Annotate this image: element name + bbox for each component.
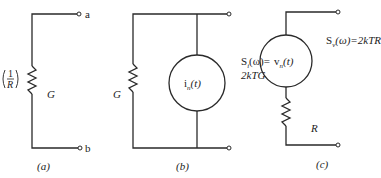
terminal-b-label: b — [85, 143, 91, 154]
resistor-c-icon — [282, 98, 290, 126]
caption-c: (c) — [316, 159, 328, 170]
conductance-label-a: G — [47, 89, 55, 100]
resistor-a-icon — [28, 66, 36, 94]
caption-a: (a) — [37, 161, 50, 172]
caption-b: (b) — [176, 161, 189, 172]
terminal-c-bottom-icon — [336, 143, 340, 147]
fraction-numerator: 1 — [8, 69, 13, 79]
current-source-label: in(t) — [184, 78, 201, 92]
voltage-source-label: vn(t) — [274, 56, 293, 70]
panel-c-circuit — [260, 10, 340, 147]
resistor-b-icon — [129, 64, 137, 92]
panel-a-circuit — [28, 12, 82, 150]
terminal-b-bottom-icon — [227, 146, 231, 150]
resistance-label-c: R — [311, 123, 318, 134]
terminal-a-icon — [77, 12, 81, 16]
fraction-denominator: R — [7, 80, 13, 90]
terminal-a-label: a — [85, 9, 90, 20]
terminal-c-top-icon — [336, 10, 340, 14]
conductance-label-b: G — [113, 89, 121, 100]
voltage-psd-label: Sv(ω)=2kTR — [326, 35, 381, 49]
terminal-b-icon — [78, 146, 82, 150]
panel-b-circuit — [129, 12, 231, 150]
terminal-b-top-icon — [227, 12, 231, 16]
current-psd-value: 2kTG — [241, 70, 265, 81]
